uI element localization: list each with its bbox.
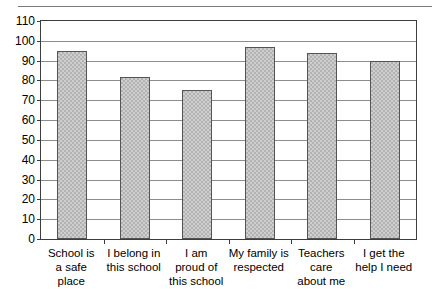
x-axis-tick — [166, 239, 167, 244]
y-axis-tick-label: 20 — [7, 193, 35, 205]
y-axis-tick-label: 10 — [7, 213, 35, 225]
x-axis-category-label: I belong in this school — [103, 246, 166, 274]
y-axis-tick-label: 60 — [7, 114, 35, 126]
x-axis-category-label: I get the help I need — [353, 246, 416, 274]
bar[interactable] — [120, 77, 150, 240]
x-axis-tick — [104, 239, 105, 244]
bar-slot — [166, 21, 229, 239]
y-axis-tick-label: 40 — [7, 154, 35, 166]
bar-chart-figure: 0102030405060708090100110 School is a sa… — [0, 0, 440, 289]
x-axis-category-label: My family is respected — [228, 246, 291, 274]
y-axis-tick-label: 100 — [7, 35, 35, 47]
bar-slot — [229, 21, 292, 239]
y-axis-tick-label: 110 — [7, 15, 35, 27]
bar-slot — [104, 21, 167, 239]
x-axis-category-label: Teachers care about me — [290, 246, 353, 288]
y-axis-tick-label: 0 — [7, 233, 35, 245]
bars-layer — [41, 21, 416, 239]
bar-slot — [41, 21, 104, 239]
bar[interactable] — [57, 51, 87, 239]
bar-slot — [354, 21, 417, 239]
x-axis-labels: School is a safe placeI belong in this s… — [40, 246, 417, 289]
bar[interactable] — [370, 61, 400, 239]
y-axis-tick-label: 70 — [7, 94, 35, 106]
bar[interactable] — [245, 47, 275, 239]
bar[interactable] — [182, 90, 212, 239]
x-axis-category-label: School is a safe place — [40, 246, 103, 288]
x-axis-tick — [354, 239, 355, 244]
x-axis-tick — [291, 239, 292, 244]
top-divider-rule — [18, 6, 432, 7]
x-axis-tick — [229, 239, 230, 244]
y-axis-tick — [37, 239, 41, 240]
y-axis-tick-label: 30 — [7, 174, 35, 186]
plot-area: 0102030405060708090100110 — [40, 20, 417, 240]
y-axis-tick-label: 50 — [7, 134, 35, 146]
x-axis-category-label: I am proud of this school — [165, 246, 228, 288]
y-axis-tick-label: 90 — [7, 55, 35, 67]
y-axis-tick-label: 80 — [7, 74, 35, 86]
bar-slot — [291, 21, 354, 239]
bar[interactable] — [307, 53, 337, 239]
